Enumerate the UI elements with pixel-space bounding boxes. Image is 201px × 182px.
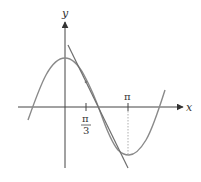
tick-label-pi-over-3-denominator: 3 [83, 125, 89, 136]
cosine-tangent-diagram: x y π 3 π [0, 0, 201, 182]
tick-label-pi: π [124, 91, 131, 102]
y-axis-label: y [61, 7, 69, 20]
tick-label-pi-over-3-numerator: π [82, 113, 89, 124]
x-axis-label: x [186, 101, 193, 114]
tangency-point [85, 81, 88, 84]
